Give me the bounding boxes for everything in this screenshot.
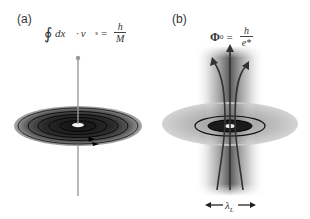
- panel-b-superconducting-vortex: (b) Φ0 = h e* λL: [155, 0, 310, 219]
- penetration-depth-label: λL: [225, 199, 234, 214]
- arrow-right-icon: [250, 202, 256, 208]
- eq-numerator: h: [242, 26, 251, 36]
- eq-fraction: h e*: [240, 26, 253, 48]
- panel-label-b: (b): [172, 12, 187, 26]
- arrow-left-icon: [205, 202, 211, 208]
- eq-equals: =: [226, 31, 232, 43]
- lambda-subscript: L: [230, 206, 234, 214]
- eq-denominator: e*: [240, 36, 253, 48]
- eq-equals: =: [101, 27, 107, 39]
- circulation-quantization-equation: ∮ dx⃗ · v⃗s = h M: [44, 22, 126, 44]
- panel-label-a: (a): [17, 12, 32, 26]
- eq-v: v⃗: [81, 27, 94, 39]
- panel-a-superfluid-vortex: (a) ∮ dx⃗ · v⃗s = h M: [0, 0, 155, 219]
- contour-integral-symbol: ∮: [44, 24, 52, 43]
- eq-v-subscript: s: [95, 29, 98, 37]
- eq-phi: Φ: [210, 30, 220, 45]
- eq-denominator: M: [114, 32, 126, 44]
- eq-dot: ·: [76, 27, 79, 39]
- vortex-line-tip: [76, 56, 80, 60]
- eq-numerator: h: [116, 22, 125, 32]
- eq-dx: dx⃗: [55, 27, 74, 39]
- eq-fraction: h M: [114, 22, 126, 44]
- eq-phi-subscript: 0: [220, 33, 224, 41]
- flux-quantization-equation: Φ0 = h e*: [210, 26, 253, 48]
